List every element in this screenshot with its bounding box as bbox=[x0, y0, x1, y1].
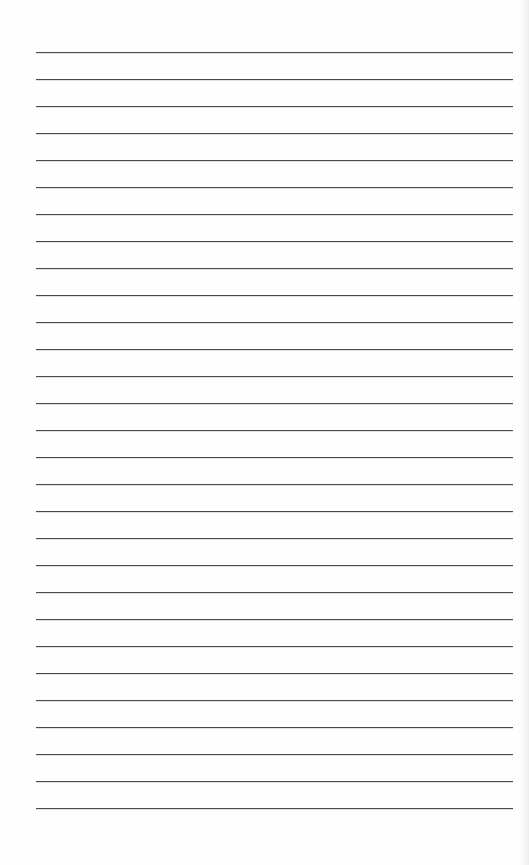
ruled-line bbox=[36, 565, 513, 566]
page-edge-shadow bbox=[519, 0, 529, 865]
ruled-line bbox=[36, 79, 513, 80]
ruled-line bbox=[36, 187, 513, 188]
ruled-line bbox=[36, 457, 513, 458]
ruled-line bbox=[36, 106, 513, 107]
lined-paper-page bbox=[0, 0, 529, 865]
ruled-line bbox=[36, 700, 513, 701]
ruled-line bbox=[36, 727, 513, 728]
ruled-line bbox=[36, 52, 513, 53]
ruled-line bbox=[36, 511, 513, 512]
ruled-line bbox=[36, 160, 513, 161]
ruled-line bbox=[36, 430, 513, 431]
ruled-line bbox=[36, 295, 513, 296]
ruled-line bbox=[36, 403, 513, 404]
ruled-line bbox=[36, 214, 513, 215]
ruled-line bbox=[36, 673, 513, 674]
ruled-line bbox=[36, 538, 513, 539]
ruled-line bbox=[36, 781, 513, 782]
ruled-line bbox=[36, 322, 513, 323]
ruled-line bbox=[36, 619, 513, 620]
ruled-line bbox=[36, 241, 513, 242]
ruled-line bbox=[36, 376, 513, 377]
ruled-line bbox=[36, 268, 513, 269]
ruled-line bbox=[36, 484, 513, 485]
ruled-line bbox=[36, 646, 513, 647]
ruled-line bbox=[36, 592, 513, 593]
ruled-line bbox=[36, 133, 513, 134]
ruled-line bbox=[36, 808, 513, 809]
ruled-line bbox=[36, 754, 513, 755]
ruled-line bbox=[36, 349, 513, 350]
